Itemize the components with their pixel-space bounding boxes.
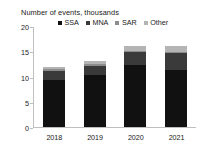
legend-label: SSA	[65, 19, 79, 27]
y-tick-mark	[30, 52, 33, 53]
bar-column[interactable]	[43, 27, 65, 127]
bar-segment-ssa[interactable]	[43, 80, 65, 127]
y-tick-label: 15	[21, 49, 29, 56]
legend-swatch-icon	[144, 21, 148, 25]
legend-swatch-icon	[86, 21, 90, 25]
x-tick-label: 2018	[43, 133, 65, 142]
x-tick-label: 2019	[84, 133, 106, 142]
legend-swatch-icon	[58, 21, 62, 25]
legend-item-sar[interactable]: SAR	[115, 19, 136, 27]
y-tick-label: 10	[21, 74, 29, 81]
bar-column[interactable]	[124, 27, 146, 127]
y-tick-label: 20	[21, 24, 29, 31]
bar-segment-mna[interactable]	[43, 71, 65, 80]
bar-group	[34, 27, 196, 127]
legend-label: MNA	[92, 19, 108, 27]
legend-label: Other	[150, 19, 168, 27]
bar-segment-mna[interactable]	[165, 53, 187, 70]
y-tick-mark	[30, 128, 33, 129]
y-tick-mark	[30, 103, 33, 104]
x-axis-line	[33, 127, 196, 128]
bar-column[interactable]	[165, 27, 187, 127]
y-tick-label: 0	[25, 125, 29, 132]
y-tick-label: 5	[25, 99, 29, 106]
x-tick-label: 2021	[166, 133, 188, 142]
bar-segment-mna[interactable]	[84, 66, 106, 75]
bar-segment-ssa[interactable]	[84, 75, 106, 127]
legend-swatch-icon	[115, 21, 119, 25]
y-tick-mark	[30, 27, 33, 28]
x-axis-labels: 2018201920202021	[34, 133, 197, 142]
chart-container: Number of events, thousands SSAMNASAROth…	[0, 0, 199, 152]
legend-item-mna[interactable]: MNA	[86, 19, 108, 27]
chart-title: Number of events, thousands	[21, 8, 119, 17]
y-tick-mark	[30, 78, 33, 79]
bar-column[interactable]	[84, 27, 106, 127]
chart-legend: SSAMNASAROther	[58, 19, 168, 27]
legend-item-other[interactable]: Other	[144, 19, 168, 27]
bar-segment-ssa[interactable]	[124, 65, 146, 127]
bar-segment-mna[interactable]	[124, 52, 146, 65]
bar-segment-ssa[interactable]	[165, 70, 187, 127]
legend-label: SAR	[122, 19, 137, 27]
plot-area: 05101520	[33, 27, 196, 128]
x-tick-label: 2020	[125, 133, 147, 142]
legend-item-ssa[interactable]: SSA	[58, 19, 79, 27]
